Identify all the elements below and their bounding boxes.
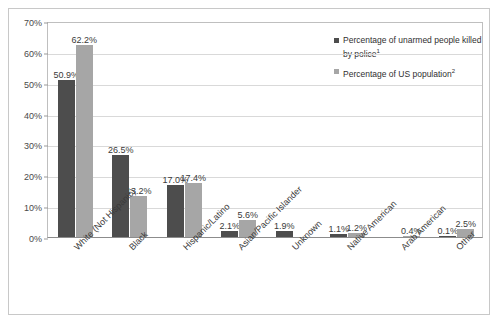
bar-unarmed-killed[interactable] <box>439 236 456 238</box>
bar-group <box>330 23 365 237</box>
bar-unarmed-killed[interactable] <box>276 231 293 237</box>
y-axis-tick-label: 40% <box>24 111 42 121</box>
y-axis-tick-label: 0% <box>29 234 42 244</box>
y-axis-tick-mark <box>44 239 48 240</box>
bar-us-population[interactable] <box>76 45 93 237</box>
bar-group <box>58 23 93 237</box>
y-axis-tick-label: 70% <box>24 18 42 28</box>
bar-unarmed-killed[interactable] <box>221 231 238 237</box>
plot-area: 0%10%20%30%40%50%60%70% 50.9%62.2%26.5%1… <box>47 22 483 238</box>
bar-unarmed-killed[interactable] <box>330 234 347 237</box>
y-axis-tick-label: 50% <box>24 80 42 90</box>
bar-group <box>167 23 202 237</box>
y-axis-tick-label: 10% <box>24 203 42 213</box>
y-axis-tick-label: 60% <box>24 49 42 59</box>
y-axis-tick-label: 20% <box>24 172 42 182</box>
bar-group <box>439 23 474 237</box>
bar-unarmed-killed[interactable] <box>58 80 75 237</box>
bar-unarmed-killed[interactable] <box>167 185 184 237</box>
y-axis-tick-label: 30% <box>24 141 42 151</box>
